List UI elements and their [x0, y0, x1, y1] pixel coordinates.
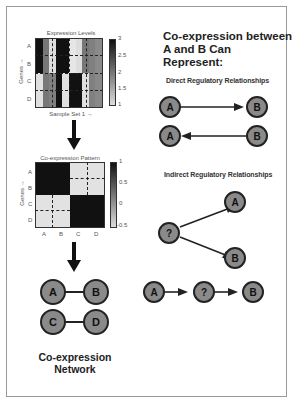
heatmap-row: [36, 163, 104, 179]
x-axis-label-text: Sample Set 1: [49, 111, 85, 117]
node-b: B: [83, 279, 109, 305]
heatmap-cell: [76, 73, 83, 90]
node-a: A: [224, 191, 246, 213]
heatmap-cell: [89, 56, 96, 73]
heatmap-cell: [76, 39, 83, 56]
node-b: B: [242, 281, 264, 303]
colorbar-tick: 1: [119, 158, 122, 164]
grid-line: [52, 195, 53, 228]
heatmap-cell: [70, 179, 87, 195]
colorbar-tick: 2.5: [118, 52, 126, 58]
heatmap-cell: [43, 39, 50, 56]
arrow-down-icon: [66, 242, 82, 274]
colorbar-tick: -0.5: [117, 222, 127, 228]
node-d: D: [83, 309, 109, 335]
heatmap-cell: [36, 163, 53, 179]
heatmap-cell: [95, 90, 102, 107]
x-axis-label: Sample Set 1 →: [40, 111, 102, 117]
heatmap-cell: [95, 56, 102, 73]
y-axis-label: Genes →: [18, 56, 24, 86]
expression-colorbar: [109, 39, 116, 106]
heatmap-row: [36, 195, 104, 211]
colorbar-tick: 1.5: [118, 85, 126, 91]
heatmap-cell: [89, 90, 96, 107]
heatmap-cell: [95, 73, 102, 90]
heatmap-cell: [36, 195, 53, 211]
row-label-b: B: [28, 185, 32, 191]
heatmap-cell: [56, 56, 63, 73]
heatmap-cell: [36, 90, 43, 107]
arrow-right-icon: [178, 102, 248, 112]
row-label-c: C: [27, 78, 31, 84]
row-label-a: A: [27, 43, 31, 49]
heatmap-cell: [62, 56, 69, 73]
direct-title: Direct Regulatory Relationships: [166, 77, 269, 84]
heatmap-cell: [87, 163, 104, 179]
colorbar-tick: 0.5: [119, 179, 127, 185]
heatmap-cell: [43, 56, 50, 73]
heatmap-cell: [87, 211, 104, 227]
heatmap-cell: [43, 73, 50, 90]
heatmap-cell: [87, 195, 104, 211]
grid-line: [86, 38, 87, 108]
y-axis-label-text: Genes: [19, 188, 25, 206]
colorbar-tick: 2: [118, 69, 121, 75]
heatmap-cell: [56, 39, 63, 56]
heatmap-cell: [36, 56, 43, 73]
coexpression-heatmap-title: Co-expression Pattern: [35, 155, 105, 161]
y-axis-label: Genes →: [19, 178, 25, 208]
grid-line: [87, 162, 88, 195]
heatmap-cell: [36, 39, 43, 56]
network-label-line1: Co-expression: [25, 351, 125, 363]
grid-line: [52, 38, 53, 108]
arrow-right-icon: [164, 287, 194, 297]
heatmap-cell: [76, 90, 83, 107]
heatmap-cell: [95, 39, 102, 56]
coexpression-heatmap: [35, 162, 105, 228]
node-a: A: [159, 96, 181, 118]
colorbar-tick: 3: [118, 35, 121, 41]
indirect-title: Indirect Regulatory Relationships: [164, 171, 272, 178]
heatmap-cell: [89, 39, 96, 56]
arrow-down-icon: [66, 120, 82, 152]
heatmap-cell: [89, 73, 96, 90]
col-label-b: B: [59, 231, 63, 237]
heatmap-cell: [53, 179, 70, 195]
arrow-right-icon: [214, 287, 244, 297]
row-label-d: D: [28, 217, 32, 223]
col-label-d: D: [94, 231, 98, 237]
heatmap-cell: [43, 90, 50, 107]
heatmap-cell: [62, 39, 69, 56]
network-label-line2: Network: [25, 363, 125, 375]
heatmap-cell: [62, 73, 69, 90]
heatmap-cell: [62, 90, 69, 107]
heatmap-cell: [70, 195, 87, 211]
expression-heatmap-title: Expression Levels: [38, 30, 104, 36]
colorbar-tick: 1: [118, 101, 121, 107]
heatmap-cell: [76, 56, 83, 73]
col-label-a: A: [42, 231, 46, 237]
node-b: B: [246, 125, 268, 147]
heatmap-cell: [36, 211, 53, 227]
heatmap-cell: [53, 163, 70, 179]
right-heading: Co-expression between A and B Can Repres…: [163, 30, 293, 69]
colorbar-tick: 0: [119, 200, 122, 206]
col-label-c: C: [76, 231, 80, 237]
heatmap-cell: [53, 211, 70, 227]
heatmap-cell: [70, 163, 87, 179]
node-a: A: [159, 125, 181, 147]
heading-line2: A and B Can Represent:: [163, 43, 293, 69]
node-b: B: [224, 247, 246, 269]
node-a: A: [40, 279, 66, 305]
coexpression-colorbar: [110, 162, 117, 228]
y-axis-label-text: Genes: [18, 66, 24, 84]
node-c: C: [40, 309, 66, 335]
grid-line: [69, 38, 70, 108]
heatmap-cell: [87, 179, 104, 195]
row-label-d: D: [27, 96, 31, 102]
node-unknown: ?: [158, 222, 180, 244]
node-unknown: ?: [193, 281, 215, 303]
heatmap-cell: [56, 90, 63, 107]
heatmap-row: [36, 179, 104, 195]
node-a: A: [143, 281, 165, 303]
